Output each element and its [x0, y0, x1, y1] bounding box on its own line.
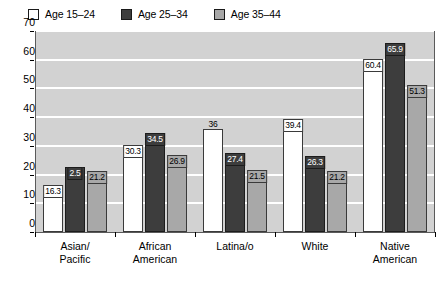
bar-1-0: 30.3 [123, 145, 143, 232]
bar-0-2: 21.2 [87, 171, 107, 232]
x-axis-label-1: AfricanAmerican [115, 240, 195, 266]
x-axis-label-line: American [115, 253, 195, 266]
x-axis-label-line: White [275, 240, 355, 253]
x-axis-label-line: American [355, 253, 435, 266]
bar-group-3: 39.426.321.2 [275, 31, 355, 232]
y-tick-label-40: 40 [5, 103, 35, 113]
bar-groups: 16.32.521.230.334.526.93627.421.539.426.… [35, 31, 435, 232]
bar-value-label-0-2: 21.2 [87, 171, 107, 184]
bar-2-2: 21.5 [247, 170, 267, 232]
bar-value-label-4-0: 60.4 [363, 59, 383, 72]
y-tick-label-30: 30 [5, 132, 35, 142]
bar-0-0: 16.3 [43, 185, 63, 232]
x-tick-mark-4 [355, 232, 356, 237]
y-tick-label-50: 50 [5, 74, 35, 84]
y-tick-mark-20 [30, 175, 34, 176]
bar-value-label-1-0: 30.3 [123, 145, 143, 158]
bar-value-label-4-1: 65.9 [385, 43, 405, 56]
y-axis: 010203040506070 [0, 31, 35, 233]
bar-value-label-1-2: 26.9 [167, 155, 187, 168]
x-tick-mark-5 [435, 232, 436, 237]
x-axis-label-line: Asian/ [35, 240, 115, 253]
legend-label-1: Age 25–34 [138, 9, 188, 20]
bar-1-2: 26.9 [167, 155, 187, 232]
x-axis-ticks [35, 232, 435, 237]
bar-value-label-2-2: 21.5 [247, 170, 267, 183]
y-tick-label-70: 70 [5, 17, 35, 27]
x-tick-mark-2 [195, 232, 196, 237]
bar-value-label-1-1: 34.5 [145, 133, 165, 146]
bar-0-1: 2.5 [65, 167, 85, 232]
y-tick-label-0: 0 [5, 218, 35, 228]
bar-value-label-4-2: 51.3 [407, 85, 427, 98]
bar-value-label-0-1: 2.5 [67, 167, 82, 180]
legend-item-2: Age 35–44 [214, 9, 281, 20]
x-tick-mark-3 [275, 232, 276, 237]
y-tick-label-10: 10 [5, 189, 35, 199]
x-axis-label-line: Latina/o [195, 240, 275, 253]
bar-3-2: 21.2 [327, 171, 347, 232]
x-axis-label-3: White [275, 240, 355, 266]
x-axis-label-line: Native [355, 240, 435, 253]
bar-group-4: 60.465.951.3 [355, 31, 435, 232]
y-tick-mark-0 [30, 232, 34, 233]
bar-group-0: 16.32.521.2 [35, 31, 115, 232]
y-tick-mark-10 [30, 203, 34, 204]
bar-4-1: 65.9 [385, 43, 405, 232]
legend-item-1: Age 25–34 [121, 9, 188, 20]
y-tick-mark-40 [30, 117, 34, 118]
bar-1-1: 34.5 [145, 133, 165, 232]
x-axis-label-line: African [115, 240, 195, 253]
x-tick-mark-0 [35, 232, 36, 237]
bar-4-2: 51.3 [407, 85, 427, 232]
bar-4-0: 60.4 [363, 59, 383, 232]
y-tick-mark-50 [30, 88, 34, 89]
y-tick-label-60: 60 [5, 46, 35, 56]
legend-swatch-2 [214, 9, 225, 20]
legend-item-0: Age 15–24 [28, 9, 95, 20]
bar-group-1: 30.334.526.9 [115, 31, 195, 232]
bar-group-2: 3627.421.5 [195, 31, 275, 232]
bar-chart: Age 15–24Age 25–34Age 35–44 010203040506… [0, 0, 445, 281]
chart-legend: Age 15–24Age 25–34Age 35–44 [28, 6, 307, 22]
bar-value-label-3-0: 39.4 [283, 119, 303, 132]
y-tick-mark-60 [30, 60, 34, 61]
legend-label-2: Age 35–44 [231, 9, 281, 20]
y-tick-mark-30 [30, 146, 34, 147]
legend-swatch-1 [121, 9, 132, 20]
x-axis-label-line: Pacific [35, 253, 115, 266]
bar-value-label-3-1: 26.3 [305, 156, 325, 169]
bar-3-1: 26.3 [305, 156, 325, 232]
x-axis-label-2: Latina/o [195, 240, 275, 266]
x-axis-label-4: NativeAmerican [355, 240, 435, 266]
x-axis-labels: Asian/PacificAfricanAmericanLatina/oWhit… [35, 240, 435, 266]
bar-2-0: 36 [203, 129, 223, 232]
y-tick-mark-70 [30, 31, 34, 32]
bar-value-label-2-0: 36 [208, 120, 217, 129]
bar-2-1: 27.4 [225, 153, 245, 232]
bar-value-label-2-1: 27.4 [225, 153, 245, 166]
x-axis-label-0: Asian/Pacific [35, 240, 115, 266]
x-tick-mark-1 [115, 232, 116, 237]
bar-value-label-3-2: 21.2 [327, 171, 347, 184]
y-tick-label-20: 20 [5, 161, 35, 171]
legend-label-0: Age 15–24 [45, 9, 95, 20]
bar-3-0: 39.4 [283, 119, 303, 232]
bar-value-label-0-0: 16.3 [43, 185, 63, 198]
